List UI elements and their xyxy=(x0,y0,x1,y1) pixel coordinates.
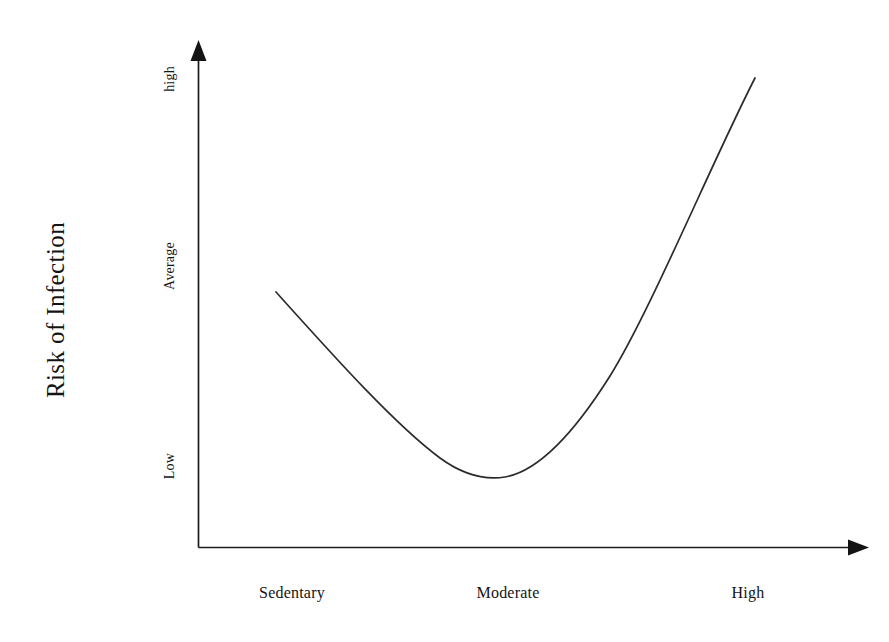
chart-figure: Risk of Infection high Average Low Seden… xyxy=(0,0,889,642)
risk-of-infection-curve xyxy=(276,78,755,478)
chart-canvas xyxy=(0,0,889,642)
x-axis-arrowhead xyxy=(848,540,869,556)
y-tick-label-average: Average xyxy=(163,242,177,290)
y-tick-label-low: Low xyxy=(163,453,177,479)
x-tick-label-sedentary: Sedentary xyxy=(259,585,325,601)
y-axis-title: Risk of Infection xyxy=(43,222,68,398)
y-tick-label-high: high xyxy=(163,66,177,92)
y-axis-arrowhead xyxy=(191,40,207,61)
x-tick-label-high: High xyxy=(732,585,765,601)
x-tick-label-moderate: Moderate xyxy=(477,585,540,601)
